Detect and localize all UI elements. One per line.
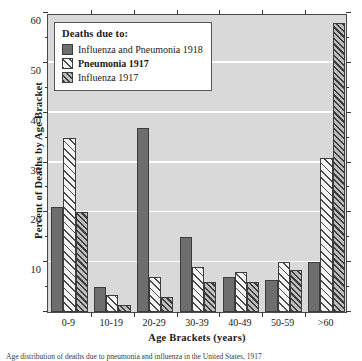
y-axis-tick-right: [346, 62, 351, 63]
bar: [118, 305, 130, 312]
y-axis-tick-right: [346, 12, 351, 13]
bar: [235, 272, 247, 312]
y-axis-tick-right: [346, 112, 351, 113]
x-axis-tick-label: >60: [318, 317, 334, 328]
y-axis-tick-right: [346, 162, 351, 163]
bar: [51, 207, 63, 312]
bar: [320, 158, 332, 312]
bar-group: [308, 15, 345, 312]
y-axis-tick-right: [346, 311, 351, 312]
legend-title: Deaths due to:: [62, 28, 203, 39]
x-axis-tick-top: [219, 10, 220, 15]
bar: [63, 138, 75, 312]
y-axis-minor-tick-right: [346, 186, 349, 187]
y-axis-minor-tick-right: [346, 236, 349, 237]
legend-swatch-icon: [62, 58, 73, 69]
x-axis-tick: [91, 312, 92, 317]
bar: [137, 128, 149, 312]
legend-label: Influenza and Pneumonia 1918: [78, 44, 203, 55]
bar: [308, 262, 320, 312]
bar: [149, 277, 161, 312]
x-axis-tick-top: [262, 10, 263, 15]
x-axis-tick-label: 20-29: [142, 317, 165, 328]
y-axis-tick-right: [346, 261, 351, 262]
y-axis-minor-tick-right: [346, 137, 349, 138]
x-axis-tick-label: 10-19: [100, 317, 123, 328]
y-axis-minor-tick-right: [346, 37, 349, 38]
x-axis-tick: [219, 312, 220, 317]
bar: [161, 297, 173, 312]
legend-item: Pneumonia 1917: [62, 56, 203, 70]
bar: [247, 282, 259, 312]
bar: [106, 295, 118, 312]
bar: [204, 282, 216, 312]
bar: [290, 270, 302, 312]
legend: Deaths due to: Influenza and Pneumonia 1…: [54, 22, 212, 91]
y-axis-tick: [43, 12, 48, 13]
legend-label: Influenza 1917: [78, 72, 138, 83]
bar: [223, 277, 235, 312]
legend-item: Influenza 1917: [62, 70, 203, 84]
figure-caption: Age distribution of deaths due to pneumo…: [6, 352, 358, 361]
x-axis-tick-label: 30-39: [185, 317, 208, 328]
x-axis-tick: [262, 312, 263, 317]
legend-entries: Influenza and Pneumonia 1918Pneumonia 19…: [62, 42, 203, 84]
legend-label: Pneumonia 1917: [78, 58, 149, 69]
y-axis-minor-tick-right: [346, 87, 349, 88]
y-axis-minor-tick-right: [346, 286, 349, 287]
x-axis-tick: [305, 312, 306, 317]
bar: [192, 267, 204, 312]
legend-item: Influenza and Pneumonia 1918: [62, 42, 203, 56]
x-axis-tick: [134, 312, 135, 317]
x-axis-tick-top: [91, 10, 92, 15]
bar: [265, 280, 277, 312]
chart-figure: Percent of Deaths by Age Bracket 1020304…: [0, 0, 362, 361]
bar: [94, 287, 106, 312]
bar: [333, 23, 345, 312]
x-axis-tick-label: 50-59: [271, 317, 294, 328]
x-axis-tick: [177, 312, 178, 317]
bar: [180, 237, 192, 312]
bar-group: [223, 15, 260, 312]
x-axis-title: Age Brackets (years): [47, 332, 347, 343]
bar-group: [265, 15, 302, 312]
bar: [76, 212, 88, 312]
bar: [278, 262, 290, 312]
x-axis-tick-top: [134, 10, 135, 15]
legend-swatch-icon: [62, 72, 73, 83]
y-axis-tick-right: [346, 211, 351, 212]
x-axis-tick-label: 0-9: [62, 317, 75, 328]
x-axis-tick-top: [177, 10, 178, 15]
x-axis-tick-label: 40-49: [228, 317, 251, 328]
x-axis-tick-top: [305, 10, 306, 15]
gridline: [48, 12, 346, 14]
legend-swatch-icon: [62, 44, 73, 55]
